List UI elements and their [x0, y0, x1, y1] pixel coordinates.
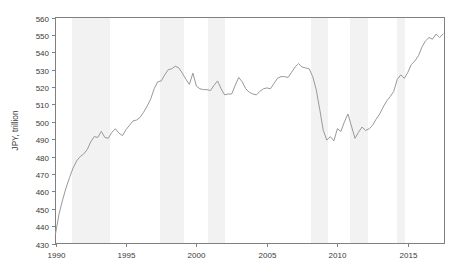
y-tick-label: 520	[36, 84, 50, 93]
x-tick-label: 2010	[329, 251, 347, 260]
recession-band	[208, 18, 225, 244]
y-tick-label: 560	[36, 15, 50, 24]
y-tick-label: 470	[36, 171, 50, 180]
line-chart: 4304404504604704804905005105205305405505…	[0, 0, 462, 275]
series-line	[56, 34, 444, 234]
x-tick-label: 2015	[400, 251, 418, 260]
x-tick-label: 2005	[259, 251, 277, 260]
y-tick-label: 500	[36, 119, 50, 128]
y-tick-label: 550	[36, 32, 50, 41]
y-tick-label: 430	[36, 241, 50, 250]
y-axis-label: JPY, trillion	[11, 110, 20, 150]
x-axis-ticks: 199019952000200520102015	[48, 244, 418, 260]
recession-band	[397, 18, 405, 244]
shaded-recession-bands	[72, 18, 405, 244]
x-tick-label: 1995	[118, 251, 136, 260]
x-tick-label: 2000	[188, 251, 206, 260]
y-axis-title: JPY, trillion	[11, 110, 20, 150]
y-tick-label: 480	[36, 154, 50, 163]
recession-band	[311, 18, 328, 244]
y-tick-label: 460	[36, 188, 50, 197]
y-axis-ticks: 4304404504604704804905005105205305405505…	[36, 15, 56, 250]
recession-band	[72, 18, 110, 244]
x-tick-label: 1990	[48, 251, 66, 260]
y-tick-label: 540	[36, 49, 50, 58]
y-tick-label: 510	[36, 101, 50, 110]
y-tick-label: 530	[36, 67, 50, 76]
recession-band	[160, 18, 184, 244]
chart-container: 4304404504604704804905005105205305405505…	[0, 0, 462, 275]
y-tick-label: 490	[36, 136, 50, 145]
data-line-series	[56, 34, 444, 234]
y-tick-label: 440	[36, 223, 50, 232]
y-tick-label: 450	[36, 206, 50, 215]
